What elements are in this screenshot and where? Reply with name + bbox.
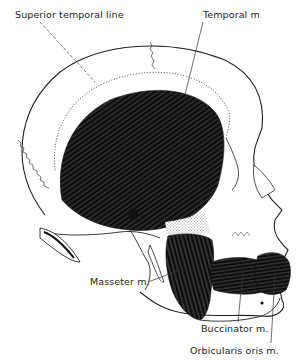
leader-temporal: [185, 22, 203, 95]
external-auditory-meatus: [128, 208, 138, 220]
label-temporal-muscle: Temporal m: [203, 9, 260, 20]
nasal-bone: [253, 165, 275, 198]
maxilla-teeth: [232, 232, 250, 236]
orbit-outline: [226, 138, 239, 190]
label-orbicularis-oris-muscle: Orbicularis oris m.: [190, 345, 279, 356]
temporal-muscle: [60, 90, 224, 230]
label-buccinator-muscle: Buccinator m.: [201, 323, 269, 334]
anatomy-diagram: Superior temporal line Temporal m Masset…: [0, 0, 301, 363]
mental-foramen: [260, 301, 263, 304]
masseter-muscle: [166, 234, 214, 320]
leader-superior-temporal: [40, 22, 95, 82]
label-masseter-muscle: Masseter m.: [90, 276, 150, 287]
label-superior-temporal-line: Superior temporal line: [15, 9, 124, 20]
orbicularis-oris-muscle: [255, 253, 290, 295]
zygomatic-arch: [45, 231, 160, 238]
skull-illustration: [0, 0, 301, 363]
